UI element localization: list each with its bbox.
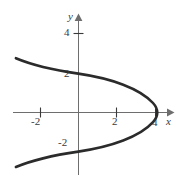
x-tick-label-2: 2 (112, 116, 118, 127)
parabola-plot (0, 0, 179, 191)
y-tick-label-4: 4 (64, 27, 70, 38)
parabola-curve (16, 133, 79, 166)
graph-figure: -2 2 4 4 2 -2 y x (0, 0, 179, 191)
x-tick-label-4: 4 (152, 117, 158, 128)
x-axis-label: x (166, 116, 171, 127)
y-axis-arrowhead (75, 14, 83, 22)
y-tick-label-neg2: -2 (58, 137, 67, 148)
y-tick-label-2: 2 (64, 68, 70, 79)
x-tick-label-neg2: -2 (31, 116, 40, 127)
y-axis-label: y (68, 11, 73, 22)
